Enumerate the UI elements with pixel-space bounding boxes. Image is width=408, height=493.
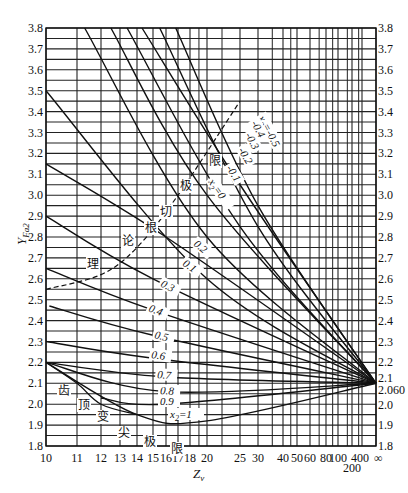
y-tick-label-right: 2.6 (378, 272, 393, 286)
y-tick-label-right: 3.1 (378, 167, 393, 181)
y-tick-label: 3.4 (28, 105, 43, 119)
boundary-annotation-char: 根 (145, 221, 157, 235)
y-tick-label: 2.5 (28, 293, 43, 307)
boundary-annotation-char: 尖 (118, 426, 130, 440)
y-tick-label: 3.7 (28, 42, 43, 56)
y-tick-label: 3.3 (28, 126, 43, 140)
y-tick-label: 3.2 (28, 146, 43, 160)
y-tick-label-right: 2.9 (378, 209, 393, 223)
grid (46, 28, 376, 446)
x-tick-label: 40 (277, 451, 289, 465)
y-tick-label-right: 2.3 (378, 335, 393, 349)
y-tick-label-right: 2.060 (378, 383, 405, 397)
boundary-annotation-char: 变 (97, 409, 109, 424)
boundary-annotation-char: 极 (144, 435, 156, 449)
x-tick-label: 18 (184, 451, 196, 465)
x-tick-label: 11 (71, 451, 83, 465)
boundary-annotation-char: 顶 (78, 398, 90, 412)
curve-label-x2=0.7: 0.7 (155, 368, 178, 382)
y-tick-label-right: 3.2 (378, 146, 393, 160)
y-tick-label: 2.1 (28, 376, 43, 390)
y-tick-label-right: 3.7 (378, 42, 393, 56)
y-tick-label-right: 2.2 (378, 355, 393, 369)
boundary-annotation-char: 齿 (58, 384, 70, 398)
x-tick-label: 15 (147, 451, 159, 465)
y-tick-label: 2.9 (28, 209, 43, 223)
y-tick-label-right: 3.3 (378, 126, 393, 140)
svg-text:0.9: 0.9 (160, 395, 174, 407)
y-tick-label-right: 2.5 (378, 293, 393, 307)
curve-label-x2=0.4: 0.4 (145, 301, 170, 320)
boundary-annotation-char: 理 (87, 257, 99, 271)
y-tick-label: 2.4 (28, 314, 43, 328)
y-tick-label: 3.5 (28, 84, 43, 98)
curve-label-x2=0.3: 0.3 (157, 276, 182, 297)
y-tick-label-right: 2.1 (378, 371, 393, 385)
y-tick-label-right: 3.5 (378, 84, 393, 98)
boundary-annotation-char: 限 (171, 442, 183, 456)
svg-text:0.6: 0.6 (151, 348, 167, 362)
x-tick-label: 60 (304, 451, 316, 465)
y-tick-label: 2.7 (28, 251, 43, 265)
boundary-annotation-char: 切 (160, 205, 172, 219)
y-tick-label-right: 2.7 (378, 251, 393, 265)
boundary-annotation-char: 限 (209, 154, 221, 168)
y-tick-label: 2.0 (28, 397, 43, 411)
x-tick-label: 14 (131, 451, 143, 465)
y-tick-label: 3.1 (28, 167, 43, 181)
x-tick-label: 30 (252, 451, 264, 465)
y-tick-label-right: 1.9 (378, 418, 393, 432)
curve-label-x2=0.6: 0.6 (149, 348, 172, 363)
x-tick-label: 12 (95, 451, 107, 465)
curve-label-x2=0: x2=0 (203, 175, 236, 213)
x-tick-label: 25 (234, 451, 246, 465)
y-tick-label: 1.9 (28, 418, 43, 432)
y-tick-label: 3.0 (28, 188, 43, 202)
y-tick-label: 3.6 (28, 63, 43, 77)
x-tick-label: 13 (114, 451, 126, 465)
x-axis-ticks: 1011121314151617182025304050608010020040… (40, 451, 383, 475)
y-tick-label-right: 2.4 (378, 314, 393, 328)
x-tick-label: ∞ (374, 451, 383, 465)
y-tick-label-right: 3.8 (378, 21, 393, 35)
y-axis-title: YFa2 (14, 223, 31, 245)
boundary-annotation-char: 论 (122, 234, 134, 248)
x-tick-label: 50 (291, 451, 303, 465)
y-tick-label: 2.6 (28, 272, 43, 286)
y-tick-label: 3.8 (28, 21, 43, 35)
boundary-annotation-char: 极 (180, 179, 192, 193)
x-tick-label: 10 (40, 451, 52, 465)
svg-text:x2=1: x2=1 (169, 408, 192, 423)
curve-label-x2=0.9: 0.9 (158, 395, 180, 407)
y-tick-label: 2.2 (28, 355, 43, 369)
curve-label-x2=0.5: 0.5 (152, 328, 176, 345)
y-tick-label-right: 3.6 (378, 63, 393, 77)
y-axis-right-ticks: 1.81.92.02.0602.12.22.32.42.52.62.72.82.… (378, 21, 405, 453)
x-tick-label: 400 (351, 451, 369, 465)
y-tick-label-right: 2.0 (378, 398, 393, 412)
y-tick-label-right: 3.4 (378, 105, 393, 119)
x-axis-title: Zv (193, 466, 204, 483)
y-tick-label-right: 3.0 (378, 188, 393, 202)
y-tick-label: 2.3 (28, 335, 43, 349)
svg-text:0.7: 0.7 (157, 368, 172, 381)
curve-label-x2=0.1: 0.1 (179, 256, 204, 278)
y-tick-label-right: 2.8 (378, 230, 393, 244)
chart: 1.81.92.02.12.22.32.42.52.62.72.82.93.03… (0, 0, 408, 493)
x-tick-label: 20 (201, 451, 213, 465)
